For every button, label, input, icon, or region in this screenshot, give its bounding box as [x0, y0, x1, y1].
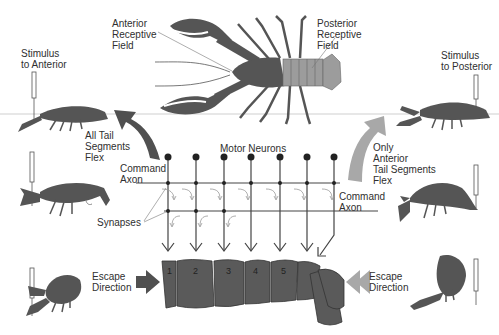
- anterior-receptive-field-label: Anterior Receptive Field: [112, 18, 156, 51]
- escape-arrow-left-icon: [136, 270, 160, 294]
- motor-neurons-label: Motor Neurons: [220, 143, 286, 154]
- signal-arrows: [162, 189, 334, 227]
- segment-label-5: 5: [281, 266, 286, 276]
- segment-label-2: 2: [193, 266, 198, 276]
- only-anterior-segments-flex-label: Only Anterior Tail Segments Flex: [373, 142, 436, 186]
- all-tail-segments-flex-label: All Tail Segments Flex: [85, 130, 130, 163]
- crayfish-right-2-icon: [398, 183, 478, 222]
- crayfish-top-icon: [155, 16, 341, 124]
- posterior-receptive-field-label: Posterior Receptive Field: [317, 18, 361, 51]
- stimulus-anterior-label: Stimulus to Anterior: [21, 48, 67, 70]
- escape-arrow-right-icon: [346, 270, 370, 294]
- command-axon-right-label: Command Axon: [339, 191, 385, 213]
- crayfish-left-1-icon: [18, 106, 108, 132]
- crayfish-right-1-icon: [396, 103, 490, 131]
- segment-label-1: 1: [167, 266, 172, 276]
- command-axon-left-label: Command Axon: [120, 163, 166, 185]
- neuron-bodies: [165, 154, 338, 161]
- segment-label-4: 4: [253, 266, 258, 276]
- synapses-label: Synapses: [97, 217, 141, 228]
- segment-label-3: 3: [226, 266, 231, 276]
- crayfish-left-2-icon: [20, 183, 110, 216]
- escape-direction-right-label: Escape Direction: [369, 271, 408, 293]
- stimulus-posterior-label: Stimulus to Posterior: [441, 50, 492, 72]
- crayfish-right-3-icon: [410, 255, 466, 310]
- escape-direction-left-label: Escape Direction: [92, 271, 131, 293]
